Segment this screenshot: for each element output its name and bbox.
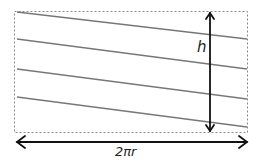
helix-line-4 [17, 97, 247, 127]
helix-lines [17, 12, 247, 127]
height-label: h [197, 38, 207, 56]
helix-line-3 [17, 69, 247, 99]
diagram-canvas [0, 0, 263, 166]
circumference-label: 2πr [115, 144, 136, 159]
helix-line-2 [17, 39, 247, 69]
height-arrow [206, 13, 214, 131]
unrolled-rectangle [15, 12, 248, 133]
